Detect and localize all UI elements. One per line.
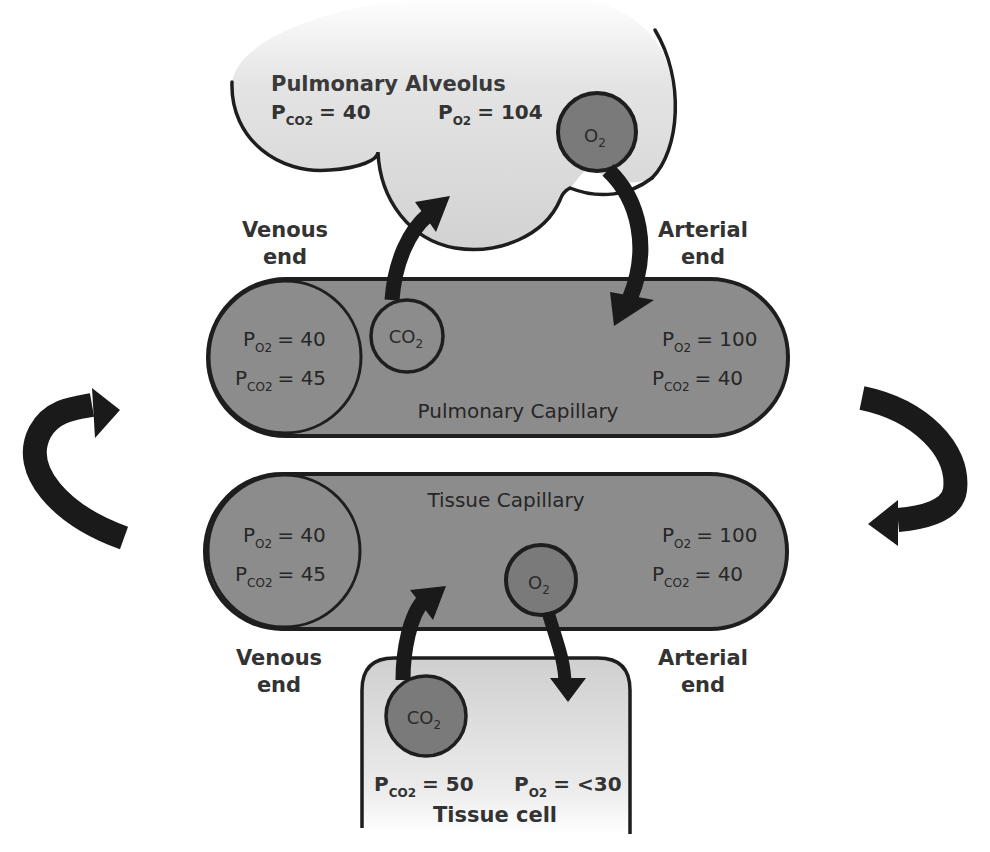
pulmonary-venous-end-label-1: Venous	[242, 218, 328, 242]
pulmonary-alveolus: Pulmonary Alveolus PCO2= 40 PO2= 104 O2	[232, 0, 675, 249]
arterial-flow-arrow-icon	[862, 398, 955, 546]
alveolus-title: Pulmonary Alveolus	[271, 72, 506, 96]
co2-molecule-pulmonary: CO2	[371, 300, 443, 372]
pulmonary-arterial-end-label-2: end	[681, 245, 725, 269]
tissue-capillary: PO2= 40 PCO2= 45 PO2= 100 PCO2= 40 Tissu…	[205, 474, 787, 629]
tissue-cell-label: Tissue cell	[433, 803, 557, 827]
tissue-venous-end-label-1: Venous	[236, 646, 322, 670]
o2-molecule-tissue-capillary: O2	[506, 545, 576, 615]
gas-exchange-diagram: Pulmonary Alveolus PCO2= 40 PO2= 104 O2 …	[0, 0, 990, 852]
tissue-arterial-end-label-2: end	[681, 673, 725, 697]
co2-molecule-tissue-cell: CO2	[386, 676, 466, 756]
tissue-venous-end-label-2: end	[257, 673, 301, 697]
o2-molecule-alveolus: O2	[558, 93, 636, 171]
tissue-arterial-end-label-1: Arterial	[658, 646, 748, 670]
tissue-capillary-label: Tissue Capillary	[426, 488, 584, 512]
pulmonary-capillary-label: Pulmonary Capillary	[418, 399, 619, 423]
pulmonary-venous-end-label-2: end	[263, 245, 307, 269]
tissue-cell: CO2 PCO2= 50 PO2= <30 Tissue cell	[362, 658, 630, 834]
pulmonary-capillary: PO2= 40 PCO2= 45 PO2= 100 PCO2= 40 Pulmo…	[208, 279, 788, 436]
pulmonary-arterial-end-label-1: Arterial	[658, 218, 748, 242]
venous-return-arrow-icon	[35, 388, 124, 538]
